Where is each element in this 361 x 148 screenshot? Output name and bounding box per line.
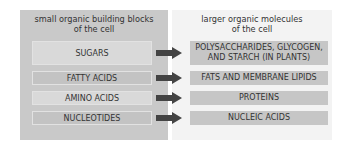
arrow-icon	[156, 47, 182, 59]
nucleotides-box: NUCLEOTIDES	[32, 111, 152, 125]
arrow-icon	[156, 112, 182, 124]
nucleic-acids-box: NUCLEIC ACIDS	[190, 111, 328, 125]
heading-line: of the cell	[172, 24, 332, 34]
sugars-box: SUGARS	[32, 41, 152, 65]
macromolecules-heading: larger organic molecules of the cell	[172, 14, 332, 34]
heading-line: small organic building blocks	[20, 14, 168, 24]
fatty-acids-box: FATTY ACIDS	[32, 71, 152, 85]
box-line: POLYSACCHARIDES, GLYCOGEN,	[195, 43, 323, 53]
proteins-box: PROTEINS	[190, 91, 328, 105]
heading-line: larger organic molecules	[172, 14, 332, 24]
arrow-icon	[156, 72, 182, 84]
polysaccharides-box: POLYSACCHARIDES, GLYCOGEN, AND STARCH (I…	[190, 41, 328, 65]
arrow-icon	[156, 92, 182, 104]
building-blocks-heading: small organic building blocks of the cel…	[20, 14, 168, 34]
lipids-box: FATS AND MEMBRANE LIPIDS	[190, 71, 328, 85]
heading-line: of the cell	[20, 24, 168, 34]
amino-acids-box: AMINO ACIDS	[32, 91, 152, 105]
box-line: AND STARCH (IN PLANTS)	[208, 53, 310, 63]
